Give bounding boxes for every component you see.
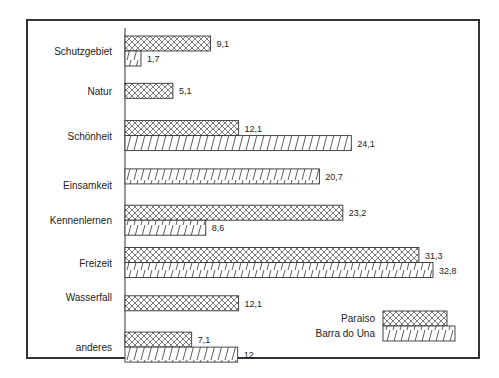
bar-crosshatch xyxy=(125,248,419,263)
category-label: Schutzgebiet xyxy=(54,46,112,57)
value-label: 7,1 xyxy=(198,335,211,345)
value-label: 32,8 xyxy=(439,266,457,276)
bar-diagonal xyxy=(125,51,141,66)
value-label: 5,1 xyxy=(179,86,192,96)
bar-chart: SchutzgebietNaturSchönheitEinsamkeitKenn… xyxy=(0,0,499,378)
category-label: Freizeit xyxy=(79,258,112,269)
category-label: Wasserfall xyxy=(66,292,112,303)
category-label: Schönheit xyxy=(68,131,113,142)
bar-crosshatch xyxy=(125,83,173,98)
category-axis: SchutzgebietNaturSchönheitEinsamkeitKenn… xyxy=(50,28,125,353)
bar-diagonal xyxy=(125,169,319,184)
value-label: 12,1 xyxy=(245,299,263,309)
value-label: 24,1 xyxy=(357,139,375,149)
bar-diagonal xyxy=(125,347,238,362)
bar-diagonal xyxy=(125,263,433,278)
legend-swatch-crosshatch xyxy=(383,311,447,326)
category-label: Einsamkeit xyxy=(63,180,112,191)
bar-crosshatch xyxy=(125,205,343,220)
bar-crosshatch xyxy=(125,296,239,311)
bar-diagonal xyxy=(125,136,351,151)
category-label: anderes xyxy=(76,342,112,353)
value-label: 20,7 xyxy=(325,172,343,182)
value-label: 1,7 xyxy=(147,54,160,64)
value-label: 12,1 xyxy=(245,124,263,134)
value-label: 12 xyxy=(244,350,254,360)
legend: ParaisoBarra do Una xyxy=(316,311,455,341)
category-label: Kennenlernen xyxy=(50,215,112,226)
value-label: 23,2 xyxy=(349,208,367,218)
value-label: 9,1 xyxy=(216,39,229,49)
bar-crosshatch xyxy=(125,36,210,51)
legend-label: Paraiso xyxy=(341,313,375,324)
bar-diagonal xyxy=(125,220,206,235)
bar-crosshatch xyxy=(125,332,192,347)
bar-crosshatch xyxy=(125,121,239,136)
value-label: 8,6 xyxy=(212,223,225,233)
category-label: Natur xyxy=(88,86,113,97)
value-label: 31,3 xyxy=(425,251,443,261)
legend-label: Barra do Una xyxy=(316,328,376,339)
legend-swatch-diagonal xyxy=(383,326,455,341)
